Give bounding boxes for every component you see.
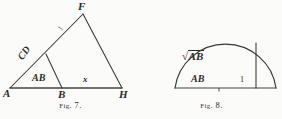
figure-8: √AB AB 1 Fig. 8. [141,0,282,119]
figure-page: A B H F AB x CD 1 Fig. 7. √AB AB 1 Fig. … [0,0,282,119]
figure-8-drawing [141,0,282,100]
figure-7: A B H F AB x CD 1 Fig. 7. [0,0,141,119]
segment-label-x: x [83,75,88,84]
segment-label-one-fig8: 1 [240,76,244,84]
figure-8-caption-rest: . 8. [211,100,223,110]
vertex-label-b: B [58,89,65,100]
vertex-label-h: H [119,89,128,100]
figure-7-caption: Fig. 7. [0,100,141,110]
segment-label-ab-fig8: AB [191,74,204,84]
altitude-label-sqrt-ab: √AB [182,50,204,62]
segment-d-b [46,54,62,88]
segment-f-h [83,14,122,88]
vertex-label-a: A [3,88,10,99]
figure-8-caption: Fig. 8. [141,100,282,110]
figure-8-caption-smallcaps: Fig [200,102,210,109]
vertex-label-f: F [78,1,85,12]
figure-7-caption-rest: . 7. [70,100,82,110]
figure-7-caption-smallcaps: Fig [59,102,69,109]
segment-label-ab: AB [32,73,45,83]
radicand-ab: AB [188,50,204,62]
